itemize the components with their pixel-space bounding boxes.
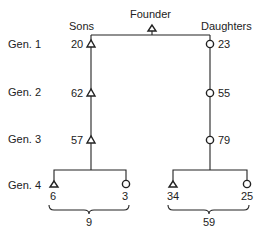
- gen-1-daughter-value: 23: [218, 38, 230, 50]
- daughters-label: Daughters: [201, 20, 252, 32]
- sons-label: Sons: [69, 20, 95, 32]
- gen-4-label: Gen. 4: [8, 179, 41, 191]
- gen-2-label: Gen. 2: [8, 86, 41, 98]
- gen-4-daughters-brace: [168, 205, 249, 214]
- gen-2-son-value: 62: [71, 87, 83, 99]
- gen-4-daughters-male-value: 34: [167, 190, 179, 202]
- gen-1-son-value: 20: [71, 38, 83, 50]
- gen-4-daughters-sibship-line: [173, 170, 247, 181]
- gen-1-son-triangle-icon: [87, 40, 95, 47]
- founder-male-icon: [148, 25, 156, 31]
- gen-4-sons-male-triangle-icon: [50, 181, 58, 187]
- gen-2-daughter-value: 55: [218, 87, 230, 99]
- gen-1-label: Gen. 1: [8, 38, 41, 50]
- gen-2-son-triangle-icon: [87, 89, 95, 96]
- gen-3-label: Gen. 3: [8, 133, 41, 145]
- gen-4-daughters-male-triangle-icon: [169, 181, 177, 187]
- gen-4-sons-total: 9: [86, 216, 92, 228]
- gen-1-daughter-circle-icon: [206, 40, 213, 47]
- founder-label: Founder: [130, 8, 171, 20]
- pedigree-diagram: Founder Sons Daughters Gen. 1 Gen. 2 Gen…: [0, 0, 261, 233]
- gen-3-daughter-value: 79: [218, 134, 230, 146]
- gen-4-sons-brace: [49, 205, 129, 214]
- gen-4-sons-female-value: 3: [122, 190, 128, 202]
- gen-3-daughter-circle-icon: [206, 136, 213, 143]
- gen-3-son-triangle-icon: [87, 136, 95, 143]
- gen-2-daughter-circle-icon: [206, 89, 213, 96]
- gen-4-sons-female-circle-icon: [122, 180, 129, 187]
- gen-3-son-value: 57: [71, 134, 83, 146]
- gen-4-daughters-total: 59: [203, 216, 215, 228]
- gen-4-sons-sibship-line: [54, 170, 126, 181]
- gen-4-sons-male-value: 6: [50, 190, 56, 202]
- gen-4-daughters-female-value: 25: [241, 190, 253, 202]
- gen-4-daughters-female-circle-icon: [243, 180, 250, 187]
